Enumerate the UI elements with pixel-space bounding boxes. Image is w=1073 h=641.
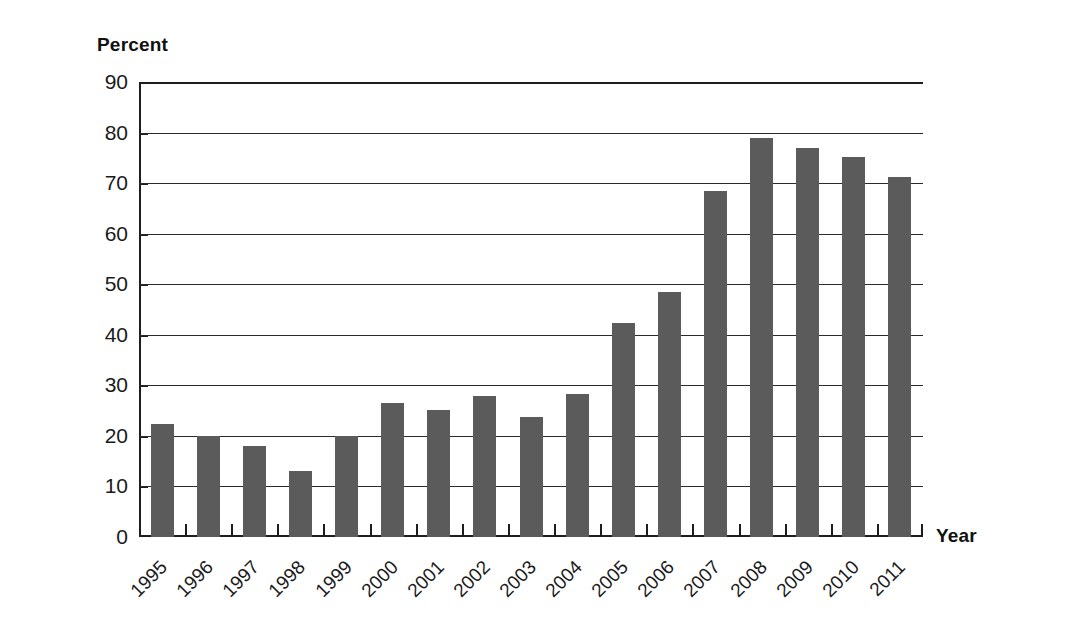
x-axis-tick-mark — [231, 524, 233, 537]
bar — [427, 410, 450, 537]
plot-area — [139, 82, 923, 537]
x-axis-tick-label: 2007 — [674, 556, 725, 607]
bar-chart-figure: Percent Year 0102030405060708090 1995199… — [0, 0, 1073, 641]
bar — [289, 471, 312, 537]
x-axis-tick-mark — [554, 524, 556, 537]
x-axis-tick-mark — [370, 524, 372, 537]
x-axis-tick-label: 2001 — [398, 556, 449, 607]
y-axis-tick-label: 20 — [88, 425, 128, 446]
y-axis-title: Percent — [97, 34, 168, 56]
x-axis-tick-label: 1995 — [121, 556, 172, 607]
x-axis-tick-label: 2011 — [859, 556, 910, 607]
x-axis-tick-mark — [462, 524, 464, 537]
bar — [750, 138, 773, 537]
x-axis-tick-label: 2003 — [490, 556, 541, 607]
bar — [842, 157, 865, 537]
x-axis-tick-label: 2004 — [536, 556, 587, 607]
bar — [888, 177, 911, 537]
x-axis-tick-mark — [508, 524, 510, 537]
x-axis-tick-mark — [692, 524, 694, 537]
x-axis-tick-mark — [739, 524, 741, 537]
bar — [612, 323, 635, 537]
x-axis-tick-label: 2009 — [767, 556, 818, 607]
x-axis-tick-mark — [646, 524, 648, 537]
x-axis-end-cap — [921, 524, 923, 537]
x-axis-tick-label: 2010 — [813, 556, 864, 607]
x-axis-tick-mark — [185, 524, 187, 537]
bar — [243, 446, 266, 537]
bar — [151, 424, 174, 537]
y-axis-tick-label: 30 — [88, 374, 128, 395]
y-axis-tick-label: 70 — [88, 172, 128, 193]
x-axis-tick-label: 2000 — [352, 556, 403, 607]
bar — [197, 436, 220, 537]
x-axis-tick-mark — [831, 524, 833, 537]
x-axis-title: Year — [936, 525, 977, 547]
x-axis-tick-label: 2006 — [628, 556, 679, 607]
x-axis-tick-mark — [600, 524, 602, 537]
x-axis-tick-label: 1998 — [259, 556, 310, 607]
x-axis-tick-mark — [323, 524, 325, 537]
y-axis-tick-label: 50 — [88, 273, 128, 294]
x-axis-tick-label: 1996 — [167, 556, 218, 607]
x-axis-tick-label: 1997 — [213, 556, 264, 607]
bar — [381, 403, 404, 537]
x-axis-tick-mark — [416, 524, 418, 537]
x-axis-tick-label: 2002 — [444, 556, 495, 607]
bar — [473, 396, 496, 537]
bar — [796, 148, 819, 537]
y-axis-tick-label: 0 — [88, 526, 128, 547]
x-axis-tick-mark — [277, 524, 279, 537]
bar — [658, 292, 681, 537]
bar — [566, 394, 589, 537]
bar — [520, 417, 543, 537]
y-axis-tick-label: 40 — [88, 324, 128, 345]
x-axis-tick-label: 2005 — [582, 556, 633, 607]
bar — [704, 191, 727, 537]
y-axis-tick-label: 60 — [88, 223, 128, 244]
x-axis-tick-label: 1999 — [305, 556, 356, 607]
gridline — [139, 133, 923, 134]
x-axis-tick-label: 2008 — [720, 556, 771, 607]
y-axis-tick-label: 90 — [88, 71, 128, 92]
x-axis-tick-mark — [877, 524, 879, 537]
y-axis-tick-label: 10 — [88, 475, 128, 496]
y-axis-tick-label: 80 — [88, 122, 128, 143]
x-axis-tick-mark — [785, 524, 787, 537]
bar — [335, 436, 358, 537]
